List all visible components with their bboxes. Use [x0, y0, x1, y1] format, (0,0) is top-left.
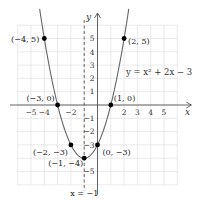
x-tick-label: −2	[65, 108, 76, 117]
point-label: (1, 0)	[114, 94, 136, 103]
parabola-chart: −5−4−2234554321−1−2−3−5 (−4, 5)(2, 5)(−3…	[0, 0, 203, 202]
y-tick-label: 5	[90, 34, 95, 43]
data-point	[42, 36, 47, 41]
point-label: (−3, 0)	[26, 94, 54, 103]
x-tick-label: 5	[162, 108, 167, 117]
x-axis-label: x	[185, 107, 190, 117]
point-label: (−4, 5)	[11, 35, 39, 44]
point-label: (2, 5)	[128, 37, 150, 46]
x-tick-label: −5	[25, 108, 36, 117]
axis-of-symmetry-label: x = −1	[70, 189, 98, 198]
y-tick-label: −1	[83, 114, 94, 123]
point-label: (−1, −4)	[48, 159, 83, 168]
data-point	[95, 143, 100, 148]
y-tick-label: −3	[83, 141, 94, 150]
data-point	[122, 36, 127, 41]
data-point	[55, 103, 60, 108]
y-tick-label: 2	[90, 74, 95, 83]
points: (−4, 5)(2, 5)(−3, 0)(1, 0)(−2, −3)(0, −3…	[11, 35, 150, 169]
x-tick-label: 4	[148, 108, 153, 117]
y-tick-label: 1	[90, 87, 95, 96]
y-tick-label: 4	[90, 48, 95, 57]
y-axis-label: y	[85, 12, 92, 22]
data-point	[108, 103, 113, 108]
x-tick-label: 2	[122, 108, 127, 117]
data-point	[69, 143, 74, 148]
x-tick-label: 3	[135, 108, 140, 117]
x-tick-label: −4	[39, 108, 50, 117]
y-tick-label: 3	[90, 61, 95, 70]
y-tick-label: −2	[83, 127, 94, 136]
point-label: (−2, −3)	[33, 148, 68, 157]
y-tick-label: −5	[83, 167, 94, 176]
equation-label: y = x² + 2x − 3	[125, 67, 192, 77]
point-label: (0, −3)	[103, 148, 131, 157]
